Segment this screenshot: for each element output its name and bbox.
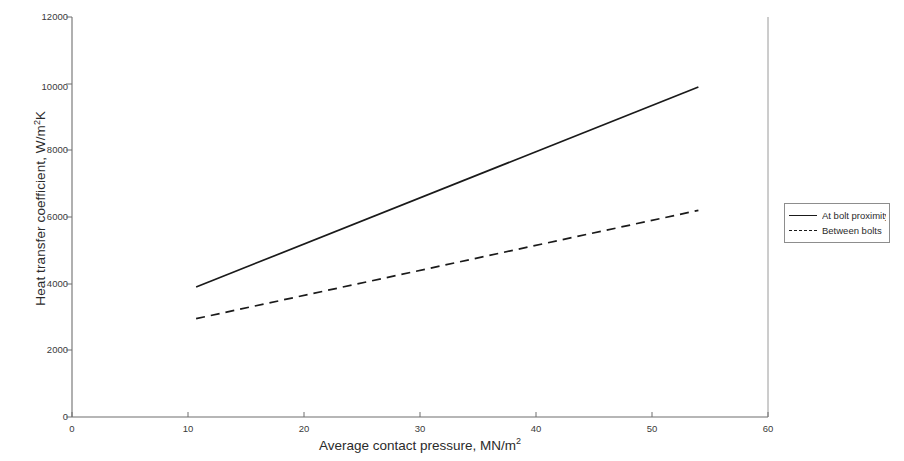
legend-item-between-bolts: Between bolts: [788, 223, 886, 238]
chart-figure: Heat transfer coefficient, W/m2K Average…: [0, 0, 904, 461]
series-line-between-bolts: [196, 210, 698, 318]
legend-label-between-bolts: Between bolts: [822, 225, 882, 236]
legend-label-at-bolt-proximity: At bolt proximity: [822, 210, 886, 221]
x-tick-marks: [72, 412, 768, 417]
legend-item-at-bolt-proximity: At bolt proximity: [788, 208, 886, 223]
plot-area: [0, 0, 904, 461]
solid-line-key: [788, 211, 818, 221]
series-line-at-bolt-proximity: [196, 87, 698, 287]
dashed-line-key: [788, 226, 818, 236]
chart-legend: At bolt proximity Between bolts: [784, 203, 890, 243]
y-tick-marks: [66, 17, 72, 417]
